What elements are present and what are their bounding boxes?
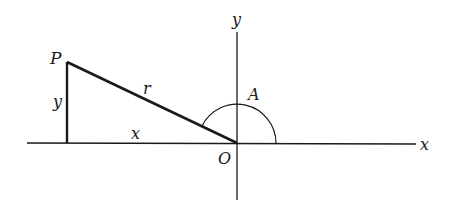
label-P: P (49, 48, 62, 68)
label-A: A (246, 85, 260, 104)
label-x-axis: x (420, 135, 429, 154)
label-r: r (143, 79, 152, 98)
angle-arc-A (202, 104, 276, 143)
diagram-canvas: P r y x A O x y (0, 0, 453, 205)
hypotenuse-r (67, 62, 237, 143)
label-y-axis: y (231, 10, 242, 29)
label-y-side: y (52, 92, 63, 111)
label-x-side: x (131, 124, 140, 143)
label-O: O (218, 149, 231, 168)
x-axis (27, 143, 416, 144)
